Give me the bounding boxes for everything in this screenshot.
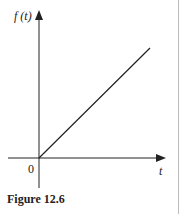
plot-area: [0, 0, 180, 214]
y-axis-label: f (t): [14, 9, 32, 24]
ramp-line: [39, 48, 150, 158]
x-axis-arrow-icon: [156, 154, 166, 162]
figure: f (t) 0 t Figure 12.6: [0, 0, 180, 214]
y-axis-arrow-icon: [35, 10, 43, 20]
origin-label: 0: [28, 162, 34, 177]
figure-caption: Figure 12.6: [7, 192, 65, 207]
x-axis-label: t: [159, 164, 162, 179]
